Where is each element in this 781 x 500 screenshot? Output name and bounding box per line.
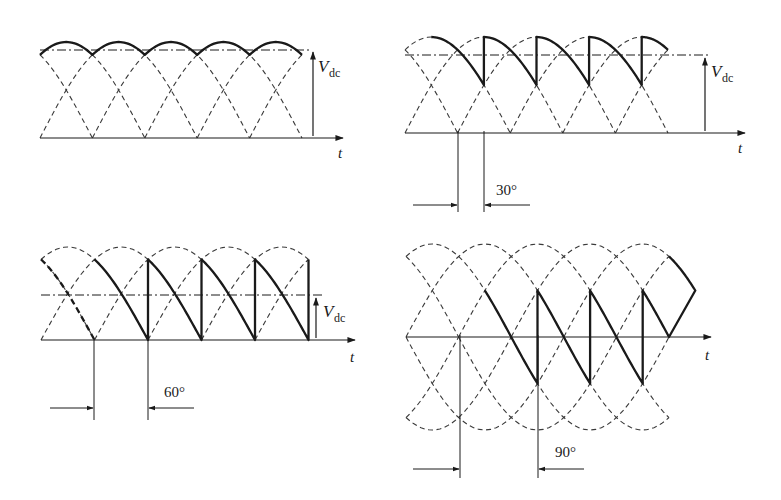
time-axis-label: t [350,349,355,365]
dashed-line-voltage-arc [405,50,458,133]
firing-angle-label: 90° [555,444,576,460]
dashed-line-voltage-arc [40,55,92,138]
dashed-line-voltage-arc [250,55,302,138]
time-axis-label: t [738,140,743,156]
dashed-line-voltage-arc [255,259,309,340]
dashed-bold-prefiring-segment [41,259,95,340]
panel-alpha-90: t90° [406,244,711,478]
output-voltage-waveform [40,42,302,55]
dashed-negative-arc [406,337,459,418]
panel-alpha-60: tVdc60° [41,247,355,420]
dashed-negative-arc [406,337,511,430]
time-axis-label: t [338,145,343,161]
output-voltage-waveform [485,256,695,383]
panel-alpha-30: tVdc30° [405,37,745,212]
time-axis-label: t [705,347,710,363]
panel-alpha-0: tVdc [40,42,343,161]
firing-angle-label: 60° [164,384,185,400]
dashed-line-voltage-arc [41,259,95,340]
dashed-line-voltage-arc [406,256,459,337]
firing-angle-label: 30° [496,182,517,198]
dashed-line-voltage-arc [40,42,145,138]
vdc-label-subscript: dc [329,66,340,80]
output-voltage-waveform [95,259,309,340]
rectifier-waveform-figure: tVdc tVdc30° tVdc60° t90° [0,0,781,500]
vdc-label-subscript: dc [334,311,345,325]
dashed-line-voltage-arc [564,244,669,337]
dashed-negative-arc [564,337,669,430]
dashed-line-voltage-arc [197,42,302,138]
vdc-label-subscript: dc [722,71,733,85]
output-voltage-waveform [431,37,668,85]
dashed-line-voltage-arc [406,244,511,337]
